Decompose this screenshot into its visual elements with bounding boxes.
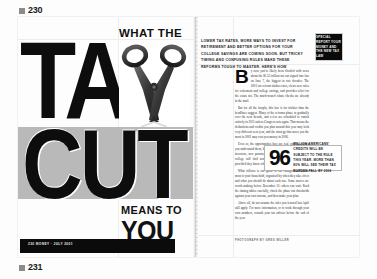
- headline-word-cut: CUT: [22, 121, 195, 209]
- body-paragraph: Above all, do not assume the rules you l…: [235, 201, 309, 221]
- page-number-top: 230: [28, 6, 42, 15]
- page-marker-top: 230: [19, 6, 42, 15]
- cut-gray-band: CUT: [18, 127, 195, 199]
- special-report-logo-text: SPECIAL REPORT YOUR MONEY AND THE NEW TA…: [316, 35, 342, 58]
- body-paragraph: But for all the hoopla, this law is far …: [235, 106, 309, 140]
- screenshot-canvas: 230 WHAT THE TAX: [0, 0, 377, 279]
- photo-credit: PHOTOGRAPH BY GREG MILLER: [235, 239, 325, 242]
- pull-quote: 96 MILLION AMERICANS' CREDITS WILL BE SU…: [264, 145, 342, 171]
- body-dropcap: B: [235, 69, 249, 85]
- page-number-bottom: 231: [28, 263, 42, 272]
- page-right: LOWER TAX RATES, MORE WAYS TO INVEST FOR…: [195, 17, 359, 257]
- pull-quote-number: 96: [269, 149, 289, 168]
- binding-perforation: [195, 17, 198, 257]
- magazine-spread: WHAT THE TAX: [18, 17, 359, 257]
- page-footer-text: 230 MONEY · JULY 2001: [28, 243, 73, 246]
- pull-quote-text: MILLION AMERICANS' CREDITS WILL BE SUBJE…: [293, 142, 337, 174]
- article-deck: LOWER TAX RATES, MORE WAYS TO INVEST FOR…: [201, 38, 309, 70]
- page-footer-bar: 230 MONEY · JULY 2001: [20, 239, 175, 253]
- page-marker-bottom: 231: [19, 263, 42, 272]
- special-report-logo: SPECIAL REPORT YOUR MONEY AND THE NEW TA…: [316, 34, 342, 60]
- layout-guide: [195, 235, 359, 236]
- page-marker-bullet-icon: [19, 265, 25, 271]
- page-left: WHAT THE TAX: [18, 17, 195, 257]
- page-marker-bullet-icon: [19, 8, 25, 14]
